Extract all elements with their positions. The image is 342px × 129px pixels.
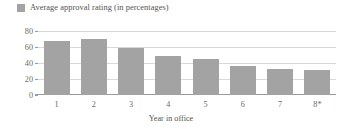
chart-legend: Average approval rating (in percentages) [17,1,169,14]
legend-swatch-icon [17,4,25,12]
xtick-label-6: 6 [241,100,245,109]
ytick-label-0: 0 [29,91,33,100]
bar-year-6[interactable] [230,66,256,95]
bar-series-approval-rating: 1 2 3 4 5 6 [38,29,336,95]
ytick-label-80: 80 [25,27,33,36]
ytick-label-40: 40 [25,59,33,68]
xtick-label-2: 2 [92,100,96,109]
bar-year-4[interactable] [155,56,181,95]
legend-item-label: Average approval rating (in percentages) [30,3,169,12]
bar-year-2[interactable] [81,39,107,95]
bar-group-3: 3 [113,29,150,95]
bar-group-6: 6 [224,29,261,95]
xtick-label-3: 3 [129,100,133,109]
plot-area: 80 60 40 20 0 1 2 3 4 5 [38,29,336,95]
bar-group-7: 7 [262,29,299,95]
bar-chart-figure: Average approval rating (in percentages)… [0,0,342,129]
bar-group-8: 8* [299,29,336,95]
bar-group-2: 2 [75,29,112,95]
bar-year-3[interactable] [118,48,144,95]
ytick-label-20: 20 [25,75,33,84]
bar-year-7[interactable] [267,69,293,95]
bar-group-5: 5 [187,29,224,95]
bar-year-5[interactable] [193,59,219,95]
ytick-label-60: 60 [25,43,33,52]
x-axis-title: Year in office [0,114,342,123]
bar-group-4: 4 [150,29,187,95]
legend-item-approval-rating: Average approval rating (in percentages) [17,3,169,12]
xtick-label-1: 1 [55,100,59,109]
bar-year-1[interactable] [44,41,70,95]
xtick-label-8: 8* [313,100,321,109]
xtick-label-4: 4 [166,100,170,109]
bar-year-8[interactable] [304,70,330,95]
xtick-label-5: 5 [204,100,208,109]
bar-group-1: 1 [38,29,75,95]
xtick-label-7: 7 [278,100,282,109]
